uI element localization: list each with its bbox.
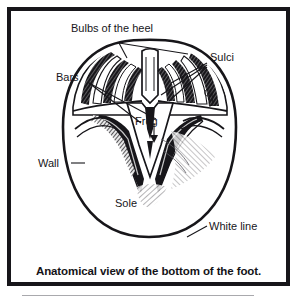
label-bulbs-of-the-heel: Bulbs of the heel — [71, 22, 153, 34]
label-sulci: Sulci — [210, 51, 234, 63]
figure-inner: Bulbs of the heel Sulci Bars Frog Wall S… — [11, 11, 286, 282]
label-sole: Sole — [115, 197, 137, 209]
label-white-line: White line — [209, 220, 257, 232]
figure-frame: Bulbs of the heel Sulci Bars Frog Wall S… — [7, 7, 290, 286]
horizontal-rule — [22, 295, 254, 296]
hoof-anatomy-illustration: Bulbs of the heel Sulci Bars Frog Wall S… — [11, 11, 286, 256]
figure-caption: Anatomical view of the bottom of the foo… — [11, 264, 286, 278]
label-frog: Frog — [135, 115, 158, 127]
figure-page: Bulbs of the heel Sulci Bars Frog Wall S… — [0, 0, 297, 303]
label-wall: Wall — [38, 157, 59, 169]
label-bars: Bars — [56, 71, 79, 83]
